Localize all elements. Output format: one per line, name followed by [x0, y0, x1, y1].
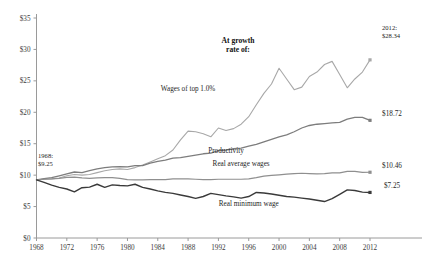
y-tick-label: $5	[23, 203, 31, 211]
x-tick-label: 1980	[120, 244, 135, 252]
y-tick-label: $0	[23, 235, 31, 243]
series-endpoint-marker	[368, 171, 371, 174]
y-axis: $0$5$10$15$20$25$30$35	[20, 14, 37, 243]
y-axis-ticks: $0$5$10$15$20$25$30$35	[20, 15, 37, 243]
chart-container: $0$5$10$15$20$25$30$35 19681972197619801…	[0, 0, 422, 261]
series-end-value-labels: $18.72$10.46$7.25	[382, 110, 402, 190]
start-annotation: 1968:$9.25	[38, 152, 54, 167]
x-tick-label: 2000	[272, 244, 287, 252]
chart-title-block: At growth rate of:	[222, 36, 256, 54]
series-endpoint-marker	[368, 191, 371, 194]
y-tick-label: $25	[20, 77, 31, 85]
series-inline-labels: Wages of top 1.0%ProductivityReal averag…	[161, 85, 279, 208]
series-line-wages-of-top-1-0	[37, 60, 371, 180]
series-endpoint-marker	[368, 119, 371, 122]
start-annotation-line-1: 1968:	[38, 152, 53, 159]
y-tick-label: $35	[20, 15, 31, 23]
end-annotation: 2012:$28.34	[382, 24, 401, 39]
series-endpoint-marker	[368, 58, 371, 61]
series-label-wages-of-top-1-0: Wages of top 1.0%	[161, 85, 216, 93]
series-line-real-average-wages	[37, 171, 371, 179]
x-tick-label: 1968	[29, 244, 44, 252]
end-value-label: $10.46	[382, 162, 402, 170]
chart-title-line-1: At growth	[222, 36, 256, 45]
y-tick-label: $20	[20, 109, 31, 117]
wage-growth-line-chart: $0$5$10$15$20$25$30$35 19681972197619801…	[0, 0, 422, 261]
end-value-label: $18.72	[382, 110, 402, 118]
y-tick-label: $15	[20, 140, 31, 148]
end-annotation-line-1: 2012:	[382, 24, 397, 31]
y-tick-label: $30	[20, 46, 31, 54]
series-label-real-average-wages: Real average wages	[213, 160, 270, 168]
series-lines	[37, 58, 372, 201]
series-line-real-minimum-wage	[37, 180, 371, 202]
x-tick-label: 2012	[363, 244, 378, 252]
x-tick-label: 1984	[151, 244, 166, 252]
x-tick-label: 2008	[332, 244, 347, 252]
chart-title-line-2: rate of:	[226, 45, 250, 54]
x-tick-label: 1972	[60, 244, 75, 252]
start-annotation-line-2: $9.25	[38, 160, 54, 167]
series-label-real-minimum-wage: Real minimum wage	[219, 200, 279, 208]
x-tick-label: 2004	[302, 244, 317, 252]
x-axis-ticks: 1968197219761980198419881992199620002004…	[29, 238, 377, 252]
x-tick-label: 1992	[211, 244, 226, 252]
x-tick-label: 1976	[90, 244, 105, 252]
x-tick-label: 1996	[242, 244, 257, 252]
end-annotation-line-2: $28.34	[382, 32, 401, 39]
series-label-productivity: Productivity	[208, 147, 244, 155]
y-tick-label: $10	[20, 172, 31, 180]
end-value-label: $7.25	[384, 182, 401, 190]
x-axis: 1968197219761980198419881992199620002004…	[29, 238, 422, 252]
x-tick-label: 1988	[181, 244, 196, 252]
series-line-productivity	[37, 117, 371, 180]
